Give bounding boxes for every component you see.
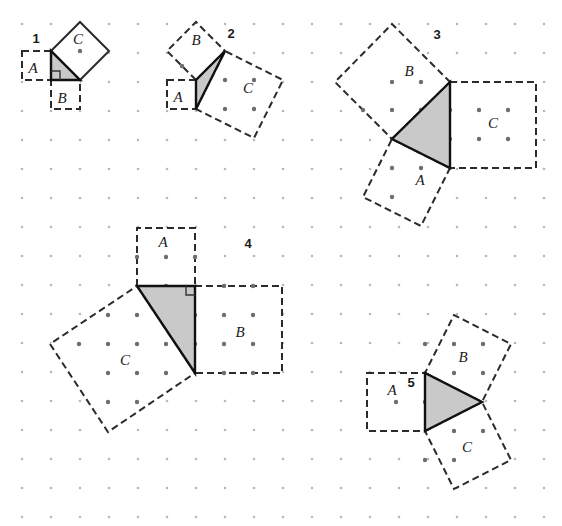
grid-dot bbox=[282, 400, 285, 403]
grid-dot bbox=[21, 226, 24, 229]
grid-dot bbox=[398, 516, 401, 519]
grid-dot bbox=[79, 255, 82, 258]
grid-dot bbox=[50, 139, 53, 142]
grid-dot bbox=[311, 342, 314, 345]
grid-dot bbox=[108, 81, 111, 84]
grid-dot bbox=[21, 516, 24, 519]
grid-dot bbox=[137, 110, 140, 113]
grid-dot bbox=[166, 400, 169, 403]
figure-3-lattice-dot bbox=[477, 108, 481, 112]
grid-dot bbox=[311, 487, 314, 490]
grid-dot bbox=[427, 255, 430, 258]
grid-dot bbox=[456, 197, 459, 200]
grid-dot bbox=[369, 487, 372, 490]
grid-dot bbox=[137, 429, 140, 432]
grid-dot bbox=[50, 458, 53, 461]
figure-3-label-a: A bbox=[414, 172, 425, 188]
grid-dot bbox=[195, 168, 198, 171]
grid-dot bbox=[369, 168, 372, 171]
grid-dot bbox=[224, 197, 227, 200]
figure-4-lattice-dot bbox=[222, 313, 226, 317]
grid-dot bbox=[427, 284, 430, 287]
pythagorean-squares-diagram: ABC1ABC2ABC3ABC4ABC5 bbox=[0, 0, 562, 526]
grid-dot bbox=[340, 168, 343, 171]
grid-dot bbox=[311, 284, 314, 287]
grid-dot bbox=[166, 139, 169, 142]
grid-dot bbox=[311, 168, 314, 171]
grid-dot bbox=[79, 313, 82, 316]
grid-dot bbox=[224, 429, 227, 432]
grid-dot bbox=[485, 197, 488, 200]
grid-dot bbox=[137, 81, 140, 84]
grid-dot bbox=[50, 284, 53, 287]
grid-dot bbox=[224, 487, 227, 490]
grid-dot bbox=[50, 371, 53, 374]
grid-dot bbox=[514, 255, 517, 258]
grid-dot bbox=[282, 487, 285, 490]
grid-dot bbox=[50, 110, 53, 113]
figure-3-lattice-dot bbox=[361, 108, 365, 112]
grid-dot bbox=[108, 23, 111, 26]
grid-dot bbox=[79, 429, 82, 432]
grid-dot bbox=[369, 342, 372, 345]
grid-dot bbox=[485, 23, 488, 26]
grid-dot bbox=[166, 458, 169, 461]
figure-4-lattice-dot bbox=[164, 255, 168, 259]
grid-dot bbox=[21, 197, 24, 200]
figure-2-lattice-dot bbox=[223, 78, 227, 82]
grid-dot bbox=[514, 342, 517, 345]
grid-dot bbox=[514, 400, 517, 403]
grid-dot bbox=[166, 197, 169, 200]
grid-dot bbox=[21, 487, 24, 490]
figure-3-lattice-dot bbox=[419, 166, 423, 170]
figure-5-lattice-dot bbox=[481, 371, 485, 375]
grid-dot bbox=[137, 458, 140, 461]
grid-dot bbox=[137, 487, 140, 490]
grid-dot bbox=[369, 284, 372, 287]
figure-4-lattice-dot bbox=[77, 342, 81, 346]
grid-dot bbox=[282, 226, 285, 229]
grid-dot bbox=[543, 313, 546, 316]
grid-dot bbox=[340, 139, 343, 142]
grid-dot bbox=[282, 110, 285, 113]
grid-dot bbox=[311, 23, 314, 26]
grid-dot bbox=[79, 139, 82, 142]
figure-5-lattice-dot bbox=[481, 429, 485, 433]
grid-dot bbox=[485, 516, 488, 519]
grid-dot bbox=[311, 429, 314, 432]
grid-dot bbox=[50, 23, 53, 26]
grid-dot bbox=[195, 516, 198, 519]
grid-dot bbox=[543, 52, 546, 55]
figure-4-lattice-dot bbox=[164, 342, 168, 346]
grid-dot bbox=[108, 255, 111, 258]
grid-dot bbox=[340, 429, 343, 432]
grid-dot bbox=[224, 255, 227, 258]
grid-dot bbox=[543, 255, 546, 258]
figure-4-lattice-dot bbox=[193, 255, 197, 259]
grid-dot bbox=[224, 168, 227, 171]
grid-dot bbox=[398, 458, 401, 461]
grid-dot bbox=[311, 52, 314, 55]
grid-dot bbox=[369, 226, 372, 229]
grid-dot bbox=[166, 168, 169, 171]
grid-dot bbox=[485, 52, 488, 55]
grid-dot bbox=[21, 458, 24, 461]
grid-dot bbox=[427, 487, 430, 490]
grid-dot bbox=[427, 23, 430, 26]
grid-dot bbox=[340, 458, 343, 461]
grid-dot bbox=[79, 197, 82, 200]
grid-dot bbox=[79, 168, 82, 171]
grid-dot bbox=[253, 197, 256, 200]
grid-dot bbox=[224, 458, 227, 461]
grid-dot bbox=[543, 400, 546, 403]
figure-4-lattice-dot bbox=[106, 342, 110, 346]
grid-dot bbox=[456, 516, 459, 519]
grid-dot bbox=[137, 197, 140, 200]
figure-1-lattice-dot bbox=[78, 49, 82, 53]
figure-3-lattice-dot bbox=[419, 80, 423, 84]
grid-dot bbox=[398, 226, 401, 229]
grid-dot bbox=[369, 313, 372, 316]
figure-4-lattice-dot bbox=[106, 400, 110, 404]
grid-dot bbox=[224, 226, 227, 229]
figure-5-lattice-dot bbox=[423, 342, 427, 346]
